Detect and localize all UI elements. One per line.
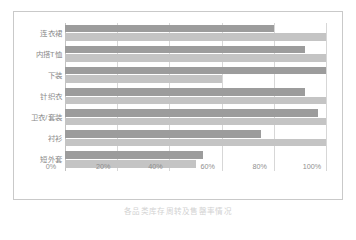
bar-series-a — [65, 46, 305, 54]
category-label: 连衣裙 — [16, 29, 62, 38]
x-tick-label: 100% — [303, 162, 321, 172]
bar-group — [65, 86, 326, 107]
bar-series-a — [65, 25, 274, 33]
bar-group — [65, 129, 326, 150]
category-label: 针织衣 — [16, 92, 62, 101]
x-tick-label: 40% — [148, 162, 162, 172]
gridline-100pct — [326, 23, 327, 171]
category-axis: 连衣裙内搭T恤下装针织衣卫衣/套装衬衫短外套 — [14, 23, 62, 171]
plot-area — [65, 23, 326, 171]
bar-series-b — [65, 75, 222, 83]
category-label: 下装 — [16, 71, 62, 80]
bar-series-a — [65, 67, 326, 75]
figure-caption: 各品类库存周转及售罄率情况 — [0, 206, 356, 217]
bar-group — [65, 23, 326, 44]
bar-series-a — [65, 130, 261, 138]
bar-group — [65, 108, 326, 129]
bar-series-b — [65, 97, 326, 105]
bar-series-b — [65, 33, 326, 41]
x-tick-label: 60% — [200, 162, 214, 172]
x-tick-label: 0% — [46, 162, 56, 172]
category-label: 卫衣/套装 — [16, 113, 62, 122]
value-axis: 0%20%40%60%80%100% — [51, 162, 312, 176]
bar-series-a — [65, 151, 203, 159]
bar-series-b — [65, 54, 326, 62]
bar-group — [65, 65, 326, 86]
bar-series-b — [65, 118, 326, 126]
x-tick-label: 20% — [96, 162, 110, 172]
x-tick-label: 80% — [253, 162, 267, 172]
bar-series-a — [65, 109, 318, 117]
category-label: 内搭T恤 — [16, 50, 62, 59]
bar-group — [65, 44, 326, 65]
bar-series-b — [65, 139, 326, 147]
category-label: 衬衫 — [16, 134, 62, 143]
bar-series-a — [65, 88, 305, 96]
